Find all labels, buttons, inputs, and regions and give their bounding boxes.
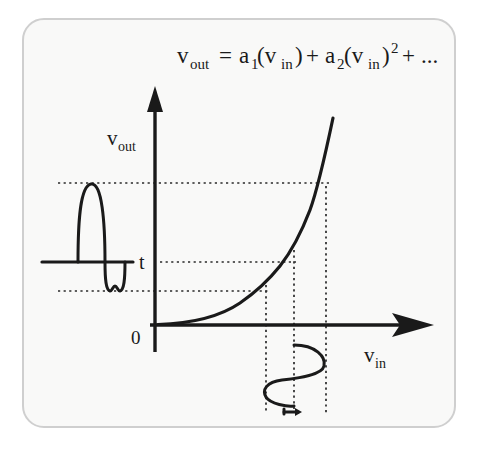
right-arrow-icon: [284, 408, 302, 416]
equation-plus-1: +: [306, 43, 319, 68]
title-equation: v out = a 1 (v in ) + a 2 (v in ) 2 + ..…: [177, 40, 438, 72]
equation-term2-exponent: 2: [391, 40, 399, 56]
right-arrow-head: [295, 408, 302, 416]
origin-label: 0: [131, 327, 141, 348]
equation-term1-close: ): [295, 43, 303, 68]
equation-term1-open: (v: [257, 43, 277, 68]
axis-labels: v out v in 0 t: [107, 126, 386, 371]
x-axis-label-base: v: [364, 343, 375, 367]
transfer-curve-path: [158, 118, 333, 325]
equation-ellipsis: ...: [421, 43, 438, 68]
equation-equals: =: [219, 43, 232, 68]
y-axis-label-base: v: [107, 126, 118, 150]
equation-plus-2: +: [402, 43, 415, 68]
equation-lhs-sub: out: [190, 56, 210, 72]
transfer-characteristic-diagram: v out = a 1 (v in ) + a 2 (v in ) 2 + ..…: [0, 0, 480, 450]
axes: [147, 86, 434, 352]
y-axis-label-sub: out: [118, 139, 136, 154]
figure-root: v out = a 1 (v in ) + a 2 (v in ) 2 + ..…: [0, 0, 480, 450]
transfer-curve: [158, 118, 333, 325]
output-waveform-path: [78, 184, 125, 291]
x-axis-label-sub: in: [375, 356, 386, 371]
y-axis-arrowhead: [147, 86, 163, 112]
equation-term2-close: ): [382, 43, 390, 68]
equation-term2-open: (v: [344, 43, 364, 68]
equation-term1-coef-base: a: [239, 43, 249, 68]
equation-term2-var-sub: in: [368, 56, 380, 72]
equation-term2-coef-base: a: [325, 43, 335, 68]
output-waveform: [42, 184, 133, 291]
equation-term1-var-sub: in: [281, 56, 293, 72]
threshold-label: t: [139, 251, 145, 273]
equation-lhs-base: v: [177, 43, 189, 68]
